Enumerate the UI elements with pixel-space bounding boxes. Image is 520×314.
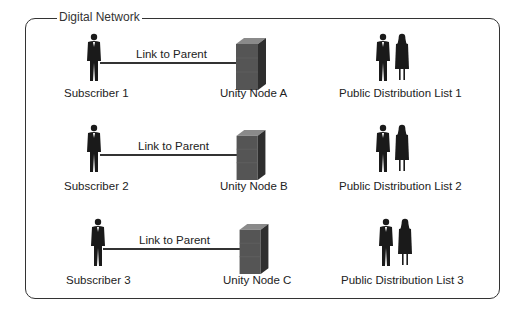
link-line-1 [100, 62, 238, 64]
public-list-3-label: Public Distribution List 3 [341, 274, 464, 286]
list-2-man-icon [373, 123, 393, 175]
list-1-man-icon [373, 32, 393, 84]
unity-node-b-icon [236, 130, 266, 180]
subscriber-2-label: Subscriber 2 [64, 180, 129, 192]
unity-node-c-label: Unity Node C [223, 274, 291, 286]
list-2-woman-icon [392, 123, 412, 175]
subscriber-2-icon [84, 123, 104, 175]
link-label-3: Link to Parent [139, 234, 210, 246]
subscriber-3-label: Subscriber 3 [66, 274, 131, 286]
list-1-woman-icon [392, 32, 412, 84]
frame-title: Digital Network [57, 10, 142, 24]
unity-node-a-label: Unity Node A [220, 87, 287, 99]
list-3-man-icon [376, 217, 396, 269]
subscriber-1-icon [84, 32, 104, 84]
subscriber-3-icon [88, 217, 108, 269]
unity-node-a-icon [236, 38, 266, 90]
public-list-1-label: Public Distribution List 1 [339, 87, 462, 99]
unity-node-c-icon [239, 224, 269, 274]
unity-node-b-label: Unity Node B [220, 180, 288, 192]
link-line-3 [103, 248, 241, 250]
subscriber-1-label: Subscriber 1 [64, 87, 129, 99]
link-line-2 [100, 154, 238, 156]
public-list-2-label: Public Distribution List 2 [339, 180, 462, 192]
link-label-1: Link to Parent [136, 48, 207, 60]
list-3-woman-icon [395, 217, 415, 269]
link-label-2: Link to Parent [138, 140, 209, 152]
